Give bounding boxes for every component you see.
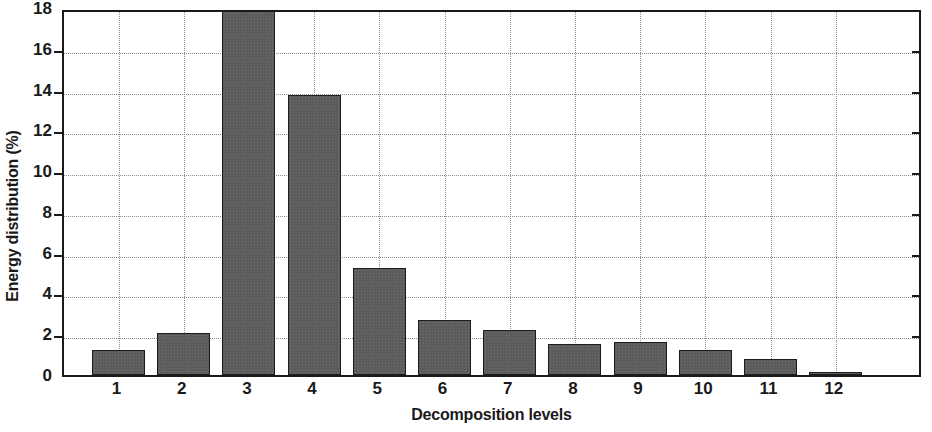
y-axis-tick-label: 4	[4, 284, 52, 304]
bar	[614, 342, 667, 375]
bar	[288, 95, 341, 375]
y-axis-tick-label: 18	[4, 0, 52, 19]
y-axis-tick-right	[912, 132, 921, 134]
y-axis-tick-right	[912, 336, 921, 338]
bar	[353, 268, 406, 375]
x-axis-tick-label: 12	[804, 379, 864, 399]
y-axis-tick-label: 16	[4, 40, 52, 60]
y-axis-tick-label: 14	[4, 81, 52, 101]
horizontal-gridline	[64, 257, 919, 258]
y-axis-tick-label: 0	[4, 366, 52, 386]
y-axis-tick-right	[912, 92, 921, 94]
bar	[744, 359, 797, 375]
bar	[418, 320, 471, 375]
y-axis-tick	[54, 295, 63, 297]
y-axis-tick-right	[912, 214, 921, 216]
vertical-gridline	[705, 12, 706, 375]
y-axis-tick	[54, 336, 63, 338]
x-axis-tick-label: 8	[543, 379, 603, 399]
horizontal-gridline	[64, 134, 919, 135]
chart-figure: Energy distribution (%) Decomposition le…	[0, 0, 932, 432]
horizontal-gridline	[64, 53, 919, 54]
bar	[809, 372, 862, 375]
y-axis-tick-label: 2	[4, 325, 52, 345]
plot-area	[62, 10, 921, 377]
y-axis-tick	[54, 51, 63, 53]
x-axis-tick-label: 1	[87, 379, 147, 399]
horizontal-gridline	[64, 297, 919, 298]
bar	[679, 350, 732, 375]
vertical-gridline	[184, 12, 185, 375]
x-axis-tick-label: 7	[478, 379, 538, 399]
y-axis-tick-label: 6	[4, 244, 52, 264]
vertical-gridline	[119, 12, 120, 375]
bar	[92, 350, 145, 375]
bar	[483, 330, 536, 375]
y-axis-tick	[54, 92, 63, 94]
vertical-gridline	[575, 12, 576, 375]
y-axis-tick	[54, 255, 63, 257]
x-axis-title: Decomposition levels	[62, 402, 921, 428]
bar	[222, 10, 275, 375]
horizontal-gridline	[64, 94, 919, 95]
horizontal-gridline	[64, 175, 919, 176]
x-axis-tick-label: 6	[413, 379, 473, 399]
horizontal-gridline	[64, 216, 919, 217]
x-axis-tick-label: 4	[282, 379, 342, 399]
vertical-gridline	[771, 12, 772, 375]
bar	[157, 333, 210, 375]
vertical-gridline	[640, 12, 641, 375]
vertical-gridline	[510, 12, 511, 375]
x-axis-tick-label: 3	[217, 379, 277, 399]
y-axis-tick-right	[912, 295, 921, 297]
x-axis-tick-label: 9	[608, 379, 668, 399]
x-axis-tick-label: 10	[673, 379, 733, 399]
y-axis-tick-right	[912, 51, 921, 53]
y-axis-tick	[54, 132, 63, 134]
x-axis-tick-label: 11	[739, 379, 799, 399]
x-axis-tick-label: 2	[152, 379, 212, 399]
y-axis-tick-label: 12	[4, 121, 52, 141]
y-axis-tick-right	[912, 255, 921, 257]
y-axis-tick-label: 10	[4, 162, 52, 182]
vertical-gridline	[836, 12, 837, 375]
y-axis-tick	[54, 173, 63, 175]
y-axis-tick	[54, 214, 63, 216]
bar	[548, 344, 601, 375]
x-axis-tick-label: 5	[347, 379, 407, 399]
y-axis-tick-right	[912, 173, 921, 175]
y-axis-tick-label: 8	[4, 203, 52, 223]
